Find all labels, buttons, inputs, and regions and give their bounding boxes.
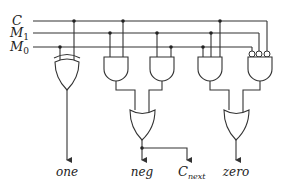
input-bus <box>33 21 267 51</box>
output-label-zero: zero <box>222 165 249 179</box>
logic-circuit-diagram: C M1 M0 <box>0 0 282 188</box>
xor-gate <box>54 19 80 160</box>
output-label-cnext: Cnext <box>178 164 206 181</box>
output-label-one: one <box>56 165 78 179</box>
output-label-neg: neg <box>131 165 154 179</box>
and-gate-4-inverted <box>243 51 272 112</box>
or-gate-zero <box>224 110 249 160</box>
and-gate-2 <box>149 31 174 112</box>
or-gate-neg <box>130 110 187 160</box>
